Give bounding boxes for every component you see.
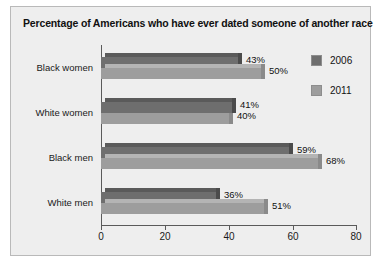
- chart-figure: Percentage of Americans who have ever da…: [10, 6, 371, 256]
- bar-value-white-men-2011: 51%: [272, 200, 291, 211]
- legend-item-2006[interactable]: 2006: [311, 55, 367, 68]
- x-tick-20: [165, 226, 166, 230]
- category-label-white-women: White women: [9, 107, 93, 118]
- bar-value-white-women-2006: 41%: [240, 99, 259, 110]
- bar-value-white-women-2011: 40%: [237, 110, 256, 121]
- x-tick-label-80: 80: [336, 231, 376, 242]
- legend-swatch-2011: [311, 85, 322, 96]
- x-tick-60: [293, 226, 294, 230]
- legend-label-2011: 2011: [330, 85, 352, 96]
- bar-white-women-2006: 41%: [101, 102, 232, 113]
- category-label-black-men: Black men: [9, 152, 93, 163]
- bar-front-face: [101, 102, 232, 113]
- bar-white-men-2011: 51%: [101, 203, 264, 214]
- legend-item-2011[interactable]: 2011: [311, 85, 367, 98]
- bar-white-women-2011: 40%: [101, 113, 229, 124]
- bar-black-men-2011: 68%: [101, 158, 318, 169]
- chart-legend: 2006 2011: [311, 55, 367, 115]
- x-tick-label-60: 60: [273, 231, 313, 242]
- legend-label-2006: 2006: [330, 55, 352, 66]
- bar-value-black-women-2011: 50%: [269, 65, 288, 76]
- bar-side-face: [264, 199, 268, 214]
- x-tick-label-20: 20: [145, 231, 185, 242]
- legend-swatch-2006: [311, 55, 322, 66]
- bar-black-women-2011: 50%: [101, 68, 261, 79]
- x-tick-label-0: 0: [81, 231, 121, 242]
- x-tick-40: [229, 226, 230, 230]
- bar-front-face: [101, 203, 264, 214]
- bar-front-face: [101, 113, 229, 124]
- bar-front-face: [101, 158, 318, 169]
- chart-title: Percentage of Americans who have ever da…: [23, 17, 363, 29]
- x-tick-80: [356, 226, 357, 230]
- category-label-black-women: Black women: [9, 62, 93, 73]
- x-tick-label-40: 40: [209, 231, 249, 242]
- bar-side-face: [261, 64, 265, 79]
- bar-side-face: [232, 98, 236, 113]
- category-label-white-men: White men: [9, 197, 93, 208]
- bar-front-face: [101, 68, 261, 79]
- bar-value-black-men-2011: 68%: [326, 155, 345, 166]
- bar-side-face: [318, 154, 322, 169]
- x-tick-0: [101, 226, 102, 230]
